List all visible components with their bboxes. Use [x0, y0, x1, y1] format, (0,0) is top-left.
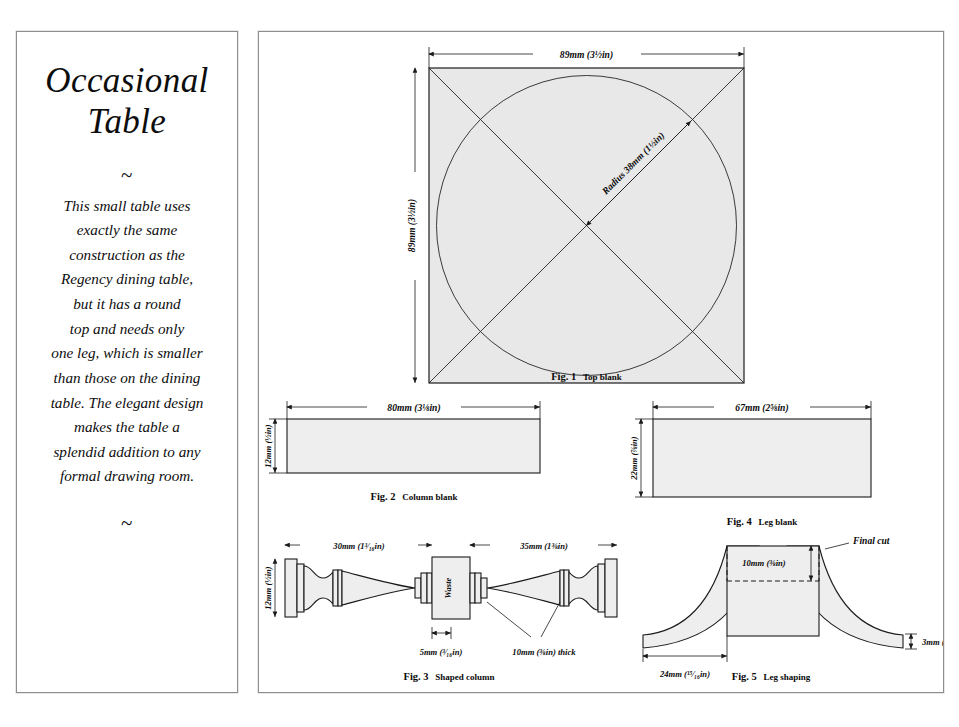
figure-4-leg-blank: 67mm (2⅝in) 22mm (⅞in) Fig. 4 Leg blank	[629, 399, 871, 527]
fig3-left-bead2	[338, 570, 342, 606]
fig1-width-label: 89mm (3½in)	[560, 49, 613, 61]
description-line: exactly the same	[33, 218, 221, 243]
svg-text:Fig. 4 Leg blank: Fig. 4 Leg blank	[727, 516, 797, 527]
fig5-final-cut-label: Final cut	[852, 535, 890, 546]
fig3-thick-leader-a	[487, 602, 531, 637]
fig4-length-label: 67mm (2⅝in)	[735, 402, 788, 414]
description-line: one leg, which is smaller	[33, 341, 221, 366]
description-line: makes the table a	[33, 415, 221, 440]
description-line: formal drawing room.	[33, 464, 221, 489]
fig5-caption-text: Leg shaping	[763, 672, 810, 682]
fig5-caption-number: Fig. 5	[732, 671, 757, 682]
fig3-right-ring2	[470, 573, 475, 603]
fig4-height-label: 22mm (⅞in)	[629, 436, 639, 481]
fig2-thickness-label: 12mm (½in)	[263, 424, 273, 468]
figure-5-leg-shaping: 10mm (⅜in) Final cut 3mm (⅛in) 24mm (¹⁵⁄…	[643, 535, 943, 682]
fig3-waste-label: Waste	[443, 577, 453, 598]
description-text: This small table uses exactly the same c…	[33, 194, 221, 490]
fig5-top-block-label: 10mm (⅜in)	[742, 558, 786, 568]
fig5-final-cut-leader	[825, 543, 849, 549]
fig3-left-bead1	[333, 570, 338, 606]
svg-text:Fig. 5 Leg shaping: Fig. 5 Leg shaping	[732, 671, 811, 682]
figure-2-column-blank: 80mm (3⅛in) 12mm (½in) Fig. 2 Column bla…	[263, 399, 540, 502]
fig3-right-endcap	[605, 559, 617, 617]
description-line: top and needs only	[33, 317, 221, 342]
description-line: splendid addition to any	[33, 440, 221, 465]
fig2-length-label: 80mm (3⅛in)	[387, 402, 440, 414]
fig3-left-ogee	[304, 566, 333, 610]
fig3-right-neck	[481, 578, 487, 598]
fig1-caption-number: Fig. 1	[551, 371, 576, 382]
description-line: Regency dining table,	[33, 267, 221, 292]
description-panel: Occasional Table ~ This small table uses…	[16, 31, 238, 693]
fig5-foot-thickness-label: 3mm (⅛in)	[921, 637, 943, 647]
fig3-waste-width-label: 5mm (³⁄₁₆in)	[420, 647, 463, 657]
svg-text:Fig. 1 Top blank: Fig. 1 Top blank	[551, 371, 622, 382]
fig3-height-label: 12mm (½in)	[263, 566, 273, 610]
fig2-rectangle	[287, 419, 540, 473]
fig1-caption-text: Top blank	[583, 372, 622, 382]
fig3-right-bead2	[560, 570, 564, 606]
drawings-panel: 89mm (3½in) 89mm (3½in) Radius 38mm (1½i…	[258, 31, 944, 693]
fig3-left-section-label: 30mm (1³⁄₁₆in)	[332, 541, 384, 551]
svg-text:Fig. 3 Shaped column: Fig. 3 Shaped column	[404, 671, 495, 682]
description-line: table. The elegant design	[33, 391, 221, 416]
fig3-caption-number: Fig. 3	[404, 671, 429, 682]
fig3-right-section-label: 35mm (1⅜in)	[519, 541, 568, 551]
fig3-left-collar1	[297, 564, 304, 612]
fig3-left-ring1	[421, 573, 427, 603]
description-line: construction as the	[33, 243, 221, 268]
fig4-caption-text: Leg blank	[758, 517, 797, 527]
fig3-right-bead1	[564, 570, 569, 606]
fig3-thick-leader-b	[541, 602, 560, 637]
fig4-rectangle	[653, 419, 871, 497]
fig3-right-ogee	[569, 566, 598, 610]
title-line-1: Occasional	[17, 60, 237, 101]
description-line: than those on the dining	[33, 366, 221, 391]
title-line-2: Table	[17, 101, 237, 142]
fig3-left-neck	[415, 578, 421, 598]
fig4-caption-number: Fig. 4	[727, 516, 753, 527]
page-root: Occasional Table ~ This small table uses…	[0, 0, 959, 727]
ornament-bottom-icon: ~	[17, 511, 237, 536]
fig3-right-taper	[487, 571, 560, 605]
fig2-caption-number: Fig. 2	[371, 491, 396, 502]
fig5-base-width-label: 24mm (¹⁵⁄₁₆in)	[659, 669, 710, 679]
fig3-left-taper	[342, 571, 415, 605]
fig2-caption-text: Column blank	[402, 492, 457, 502]
figure-1-top-blank: 89mm (3½in) 89mm (3½in) Radius 38mm (1½i…	[406, 46, 744, 383]
fig3-left-endcap	[285, 559, 297, 617]
fig3-right-ring1	[475, 573, 481, 603]
page-title: Occasional Table	[17, 60, 237, 143]
description-line: but it has a round	[33, 292, 221, 317]
fig3-right-collar1	[598, 564, 605, 612]
fig3-caption-text: Shaped column	[435, 672, 494, 682]
svg-text:Fig. 2 Column blank: Fig. 2 Column blank	[371, 491, 458, 502]
description-line: This small table uses	[33, 194, 221, 219]
fig3-collar-thickness-label: 10mm (⅜in) thick	[512, 647, 576, 657]
fig1-height-label: 89mm (3½in)	[406, 199, 418, 252]
ornament-top-icon: ~	[17, 163, 237, 188]
figure-3-shaped-column: Waste 30mm (1³⁄₁₆in) 35mm (1⅜in)	[263, 537, 617, 682]
fig3-left-ring2	[427, 573, 432, 603]
